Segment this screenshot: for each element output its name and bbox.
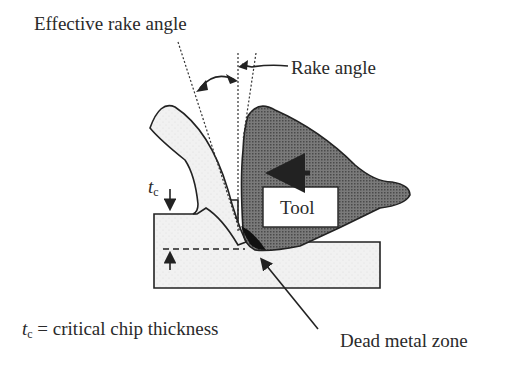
legend-text: = critical chip thickness [33,318,219,339]
rake-angle-leader [242,64,288,67]
tool-body [242,106,411,250]
rake-angle-label: Rake angle [291,58,376,77]
legend-critical-chip-thickness: tc = critical chip thickness [22,319,219,340]
tool-label: Tool [280,198,315,217]
dead-metal-zone-label: Dead metal zone [340,331,468,350]
tc-label: tc [148,177,159,198]
effective-rake-angle-label: Effective rake angle [34,14,187,33]
tc-subscript: c [153,185,158,199]
